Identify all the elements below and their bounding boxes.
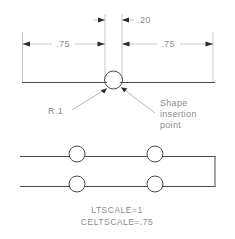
technical-drawing-root: .20 .75 .75 R.1 <box>0 0 235 239</box>
arrowhead-gap-right <box>122 18 129 23</box>
insertion-note-line-1: Shape <box>160 98 188 108</box>
radius-label: R.1 <box>48 106 63 116</box>
arrowhead-gap-left <box>98 18 105 23</box>
upper-view-group: .20 .75 .75 R.1 <box>22 14 215 130</box>
lower-circle-bottom-2 <box>147 176 163 192</box>
arrowhead-right-outer <box>206 42 214 47</box>
lower-view-group: LTSCALE=1 CELTSCALE=.75 <box>20 146 216 227</box>
drawing-canvas: .20 .75 .75 R.1 <box>0 0 235 239</box>
caption-celtscale: CELTSCALE=.75 <box>81 217 153 227</box>
arrowhead-right-inner <box>122 42 130 47</box>
insertion-note-line-2: insertion <box>160 109 197 119</box>
leader-line-insertion <box>122 88 155 113</box>
dimension-label-right: .75 <box>161 39 175 49</box>
arrowhead-left-inner <box>98 42 106 47</box>
shape-circle <box>105 71 123 89</box>
arrowhead-left-outer <box>23 42 31 47</box>
leader-line-radius <box>72 89 106 110</box>
dimension-label-gap: .20 <box>137 15 151 25</box>
arrowhead-radius <box>101 88 107 93</box>
insertion-note-line-3: point <box>160 120 181 130</box>
lower-circle-top-2 <box>147 146 163 162</box>
dimension-label-left: .75 <box>56 39 70 49</box>
caption-ltscale: LTSCALE=1 <box>91 205 142 215</box>
lower-circle-bottom-1 <box>69 176 85 192</box>
lower-circle-top-1 <box>69 146 85 162</box>
